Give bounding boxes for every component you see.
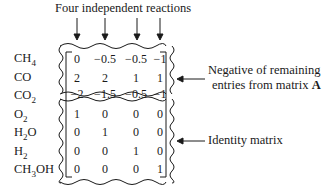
- matrix-cell: −1.5: [90, 87, 120, 102]
- matrix-cell: 0: [90, 107, 120, 122]
- species-label: H2O: [14, 125, 37, 142]
- matrix-cell: 1: [145, 162, 175, 177]
- matrix-cell: −1: [145, 87, 175, 102]
- matrix-cell: −0.5: [90, 52, 120, 67]
- matrix-cell: 0: [62, 125, 92, 140]
- matrix-cell: 1: [145, 71, 175, 86]
- species-label: CO: [14, 70, 31, 87]
- annotation-identity-matrix: Identity matrix: [208, 133, 283, 148]
- matrix-cell: 0: [90, 162, 120, 177]
- reaction-arrows: [74, 18, 163, 40]
- matrix-cell: 0: [145, 144, 175, 159]
- matrix-cell: 1: [62, 107, 92, 122]
- matrix-cell: 0: [62, 52, 92, 67]
- annotation-negative-entries: Negative of remaining entries from matri…: [208, 63, 321, 93]
- species-label: CO2: [14, 88, 36, 105]
- annotation-line: entries from matrix A: [208, 78, 321, 93]
- species-label: CH3OH: [14, 162, 54, 179]
- matrix-cell: 0: [62, 162, 92, 177]
- matrix-cell: 0: [62, 144, 92, 159]
- matrix-cell: −2: [62, 87, 92, 102]
- matrix-cell: 2: [90, 71, 120, 86]
- diagram-title: Four independent reactions: [55, 1, 191, 16]
- species-label: H2: [14, 144, 28, 161]
- annotation-line: Negative of remaining: [208, 63, 321, 78]
- matrix-cell: 0: [90, 144, 120, 159]
- matrix-cell: 0: [145, 107, 175, 122]
- species-label: CH4: [14, 51, 36, 68]
- matrix-cell: 2: [62, 71, 92, 86]
- matrix-cell: 1: [90, 125, 120, 140]
- matrix-cell: 0: [145, 125, 175, 140]
- species-label: O2: [14, 107, 28, 124]
- matrix-cell: −1: [145, 52, 175, 67]
